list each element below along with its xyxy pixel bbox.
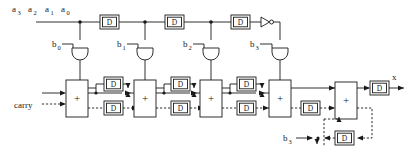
carry-label: carry [14, 100, 33, 110]
a-bus-taps [78, 20, 213, 40]
b3-feedback-subscript: 3 [289, 138, 292, 145]
delay-d-carry-3[interactable]: D [301, 101, 320, 115]
b1-subscript: 1 [123, 44, 126, 51]
delay-d-sum-0[interactable]: D [104, 77, 123, 91]
b1-label: b [117, 39, 122, 49]
delay-d-top-1-label: D [107, 18, 113, 27]
delay-d-carry-0[interactable]: D [104, 101, 123, 115]
delay-d-carry-1-label: D [178, 104, 184, 113]
a0-label: a [61, 4, 65, 14]
b3-feedback-input: b 3 [283, 133, 320, 145]
delay-d-sum-0-label: D [111, 80, 117, 89]
b3-label: b [250, 39, 255, 49]
delay-d-carry-3-label: D [308, 104, 314, 113]
delay-d-top-3[interactable]: D [231, 15, 250, 29]
circuit-schematic: a 3 a 2 a 1 a 0 D D [0, 0, 413, 156]
carry-arrowhead [60, 102, 66, 107]
delay-d-output[interactable]: D [370, 81, 389, 95]
delay-d-carry-0-label: D [111, 104, 117, 113]
delay-d-top-1[interactable]: D [100, 15, 119, 29]
b0-label: b [52, 39, 57, 49]
adder-1-label: + [142, 92, 148, 104]
a3-subscript: 3 [18, 9, 21, 16]
delay-d-feedback[interactable]: D [335, 131, 354, 145]
and-gate-b3[interactable] [272, 48, 288, 80]
a0-subscript: 0 [67, 9, 70, 16]
adder-out-label: + [343, 94, 349, 106]
delay-d-carry-2-label: D [244, 104, 250, 113]
b2-label: b [183, 39, 188, 49]
inverter-icon[interactable] [261, 17, 280, 40]
a-bus-labels: a 3 a 2 a 1 a 0 [12, 4, 70, 16]
delay-d-carry-2[interactable]: D [237, 101, 256, 115]
sum-in-arrowhead [60, 91, 66, 96]
delay-d-top-2[interactable]: D [165, 15, 184, 29]
adder-3[interactable]: + [269, 80, 291, 117]
b3-input: b 3 [250, 39, 272, 51]
delay-d-sum-2[interactable]: D [237, 77, 256, 91]
delay-d-sum-1[interactable]: D [171, 77, 190, 91]
adder-out[interactable]: + [335, 82, 357, 119]
delay-d-top-2-label: D [172, 18, 178, 27]
a1-label: a [45, 4, 49, 14]
b3-feedback-label: b [283, 133, 288, 143]
figure-canvas: a 3 a 2 a 1 a 0 D D [0, 0, 413, 156]
and-gate-b2[interactable] [203, 48, 219, 80]
adder-1[interactable]: + [134, 80, 156, 117]
delay-d-top-3-label: D [238, 18, 244, 27]
adder-0[interactable]: + [66, 80, 88, 117]
adder-2-label: + [208, 92, 214, 104]
delay-d-output-label: D [377, 84, 383, 93]
a3-label: a [12, 4, 16, 14]
b2-subscript: 2 [189, 44, 192, 51]
a2-subscript: 2 [34, 9, 37, 16]
delay-d-sum-1-label: D [178, 80, 184, 89]
b2-input: b 2 [183, 39, 204, 51]
and-gate-b1[interactable] [137, 48, 153, 80]
b1-input: b 1 [117, 39, 138, 51]
a1-subscript: 1 [51, 9, 54, 16]
adder-3-label: + [277, 92, 283, 104]
b3-subscript: 3 [256, 44, 259, 51]
delay-d-feedback-label: D [342, 134, 348, 143]
x-output-label: x [392, 72, 397, 82]
carry-input: carry [14, 91, 66, 111]
adder-0-label: + [74, 92, 80, 104]
delay-d-sum-2-label: D [244, 80, 250, 89]
and-gate-b0[interactable] [72, 48, 88, 80]
delay-d-carry-1[interactable]: D [171, 101, 190, 115]
a2-label: a [28, 4, 32, 14]
b0-subscript: 0 [58, 44, 61, 51]
adder-2[interactable]: + [200, 80, 222, 117]
b0-input: b 0 [52, 39, 73, 51]
